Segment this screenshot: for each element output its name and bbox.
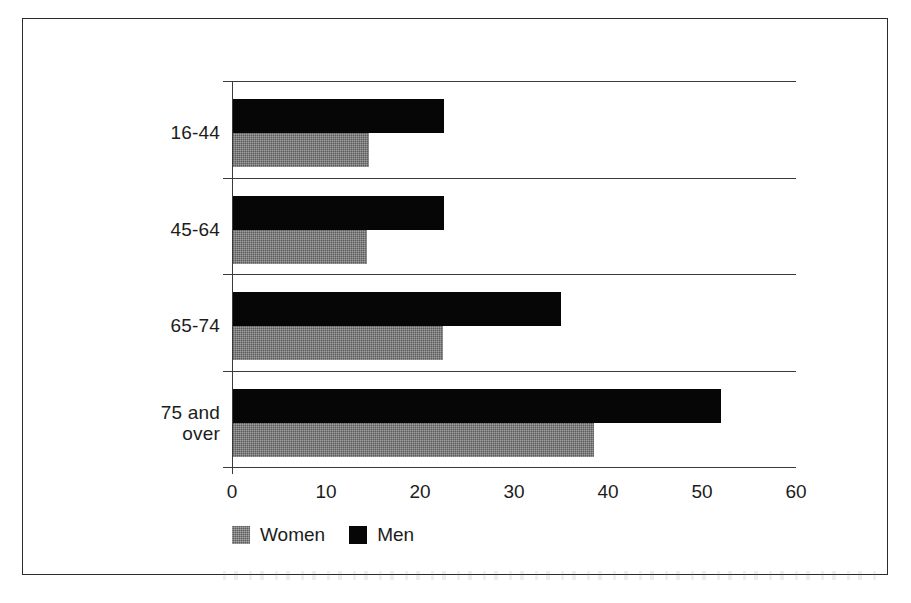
category-label: 45-64 [60,219,220,240]
gridline [223,274,796,275]
bar-group [232,196,796,264]
x-tick-label: 20 [390,481,450,503]
x-tick-label: 50 [672,481,732,503]
category-label-line: 75 and [60,402,220,423]
legend-label: Women [260,524,325,546]
chart-legend: WomenMen [232,524,414,546]
x-tick-label-group: 0102030405060 [232,481,796,511]
bar-women [232,133,369,167]
legend-item: Men [349,524,414,546]
bar-men [232,196,444,230]
category-label-group: 16-4445-6465-7475 andover [45,81,220,467]
bar-men [232,99,444,133]
legend-item: Women [232,524,325,546]
chart-figure-frame: 16-4445-6465-7475 andover 0102030405060 … [22,18,888,575]
bar-women [232,423,594,457]
bar-group [232,99,796,167]
bar-men [232,292,561,326]
bar-group [232,292,796,360]
x-tick-label: 40 [578,481,638,503]
category-label-line: 45-64 [60,219,220,240]
plot-area [232,81,796,467]
category-label-line: 65-74 [60,315,220,336]
gridline [223,371,796,372]
bar-women [232,326,443,360]
origin-tick-mark [232,461,233,474]
bar-group [232,389,796,457]
scan-artifact [223,571,883,580]
legend-label: Men [377,524,414,546]
men-swatch-icon [349,526,367,544]
women-swatch-icon [232,526,250,544]
category-label: 75 andover [60,402,220,444]
x-tick-label: 10 [296,481,356,503]
x-tick-label: 0 [202,481,262,503]
category-axis-line [223,467,796,468]
category-label: 65-74 [60,315,220,336]
x-tick-label: 30 [484,481,544,503]
category-label: 16-44 [60,122,220,143]
category-label-line: over [60,423,220,444]
x-tick-label: 60 [766,481,826,503]
gridline [223,81,796,82]
bar-women [232,230,367,264]
value-axis-line [232,81,233,467]
category-label-line: 16-44 [60,122,220,143]
gridline [223,178,796,179]
bar-men [232,389,721,423]
